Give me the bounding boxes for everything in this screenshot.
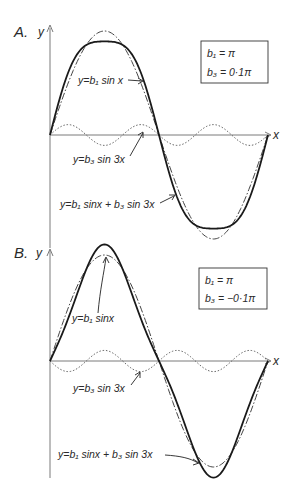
- panel-a-letter: A.: [13, 23, 28, 40]
- panel-b-fundamental-label: y=b₁ sinx: [71, 312, 115, 324]
- arrowhead-icon: [135, 372, 140, 378]
- panel-b-y-label: y: [35, 246, 43, 260]
- panel-a-param-b3: b₃ = 0·1π: [207, 66, 252, 78]
- panel-b-harmonic-label: y=b₃ sin 3x: [72, 382, 125, 394]
- panel-b-param-b3: b₃ = −0·1π: [205, 292, 256, 304]
- panel-b: B. y x b₁ = π b₃ = −0·1π y=b₁ sinx y=b₃ …: [14, 244, 280, 478]
- fourier-synthesis-diagram: A. y x b₁ = π b₃ = 0·1π y=b₁ sin x y=b₃ …: [0, 0, 296, 492]
- panel-b-sum-label: y=b₁ sinx + b₃ sin 3x: [57, 448, 153, 460]
- panel-a-sum-label: y=b₁ sinx + b₃ sin 3x: [59, 198, 155, 210]
- panel-b-fundamental-pointer: [98, 258, 106, 313]
- panel-a-y-label: y: [37, 25, 45, 39]
- panel-a: A. y x b₁ = π b₃ = 0·1π y=b₁ sin x y=b₃ …: [13, 23, 280, 248]
- panel-a-x-label: x: [272, 128, 280, 142]
- panel-b-letter: B.: [14, 244, 28, 261]
- panel-a-harmonic-pointer: [130, 133, 143, 156]
- panel-a-harmonic-label: y=b₃ sin 3x: [72, 153, 125, 165]
- panel-b-x-label: x: [272, 354, 280, 368]
- panel-a-param-b1: b₁ = π: [207, 47, 236, 59]
- panel-a-fundamental-label: y=b₁ sin x: [77, 74, 124, 86]
- panel-b-param-b1: b₁ = π: [205, 274, 234, 286]
